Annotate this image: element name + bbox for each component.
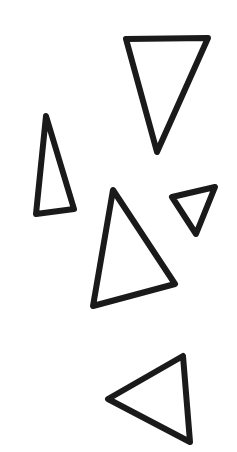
triangle-down-large xyxy=(126,38,208,152)
triangle-down-small xyxy=(172,187,215,234)
triangle-tall-narrow xyxy=(36,116,74,214)
triangle-left-pointing xyxy=(108,356,190,442)
drawing-canvas xyxy=(0,0,237,452)
triangle-up-medium xyxy=(93,190,175,306)
